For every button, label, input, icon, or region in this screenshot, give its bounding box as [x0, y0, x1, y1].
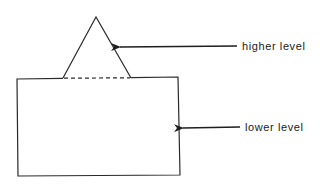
higher-level-arrow: [120, 46, 237, 47]
lower-level-box: [17, 77, 180, 176]
higher-level-label: higher level: [242, 40, 305, 52]
lower-level-label: lower level: [245, 121, 304, 133]
level-diagram: higher level lower level: [0, 0, 320, 184]
lower-level-arrow: [183, 127, 240, 128]
